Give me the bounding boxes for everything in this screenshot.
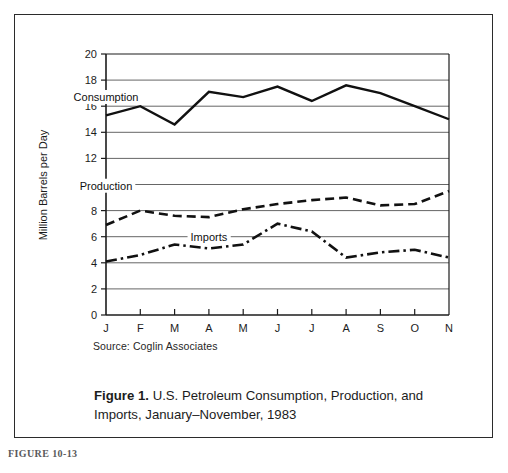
source-note: Source: Coglin Associates (93, 340, 217, 352)
x-axis-tick-label: A (205, 322, 213, 334)
figure-number-label: FIGURE 10-13 (8, 448, 78, 459)
x-axis-tick-label: F (137, 322, 144, 334)
x-axis-tick-label: O (410, 322, 419, 334)
y-axis-tick-label: 12 (85, 152, 97, 164)
x-axis-tick-label: J (275, 322, 281, 334)
x-axis-tick-label: N (445, 322, 453, 334)
y-axis-tick-label: 2 (91, 283, 97, 295)
figure-caption: Figure 1. U.S. Petroleum Consumption, Pr… (94, 386, 434, 424)
petroleum-line-chart: 02468101214161820 JFMAMJJASON Consumptio… (15, 15, 491, 436)
x-axis-tick-label: A (342, 322, 350, 334)
series-label-imports: Imports (191, 231, 228, 243)
x-axis-tick-label: M (239, 322, 248, 334)
figure-root: 02468101214161820 JFMAMJJASON Consumptio… (0, 0, 508, 473)
figure-frame: 02468101214161820 JFMAMJJASON Consumptio… (14, 14, 493, 438)
series-label-consumption: Consumption (74, 91, 139, 103)
caption-figure-label: Figure 1. (94, 388, 149, 403)
x-axis-tick-label: J (309, 322, 315, 334)
y-axis-tick-label: 8 (91, 205, 97, 217)
series-label-production: Production (80, 180, 133, 192)
x-axis-tick-label: S (377, 322, 384, 334)
y-axis-tick-label: 20 (85, 48, 97, 60)
x-axis-tick-label: J (103, 322, 109, 334)
x-axis-tick-label: M (170, 322, 179, 334)
series-line-imports (106, 224, 449, 262)
series-lines-group (106, 85, 449, 261)
y-axis-tick-label: 6 (91, 231, 97, 243)
gridlines-group (106, 80, 449, 289)
caption-text-line1: U.S. Petroleum Consumption, Production, (153, 388, 398, 403)
x-axis-ticks-group: JFMAMJJASON (103, 309, 453, 334)
series-line-consumption (106, 85, 449, 124)
y-axis-tick-label: 4 (91, 257, 97, 269)
y-axis-tick-label: 18 (85, 74, 97, 86)
series-line-production (106, 191, 449, 225)
y-axis-tick-label: 0 (91, 309, 97, 321)
y-axis-title: Million Barrels per Day (37, 129, 49, 240)
y-axis-tick-label: 14 (85, 126, 97, 138)
